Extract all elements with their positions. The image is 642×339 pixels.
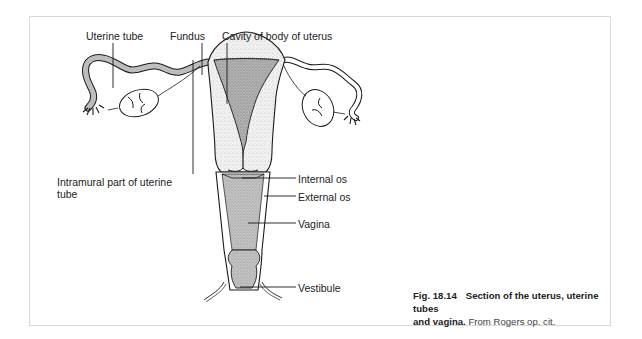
label-vestibule: Vestibule (298, 282, 341, 294)
label-uterine-tube: Uterine tube (86, 30, 143, 42)
label-external-os: External os (298, 191, 351, 203)
label-cavity-of-body-of-uterus: Cavity of body of uterus (222, 30, 332, 42)
figure-title-part2: and vagina. (413, 316, 466, 327)
figure-caption: Fig. 18.14Section of the uterus, uterine… (413, 289, 613, 328)
label-vagina: Vagina (298, 218, 330, 230)
left-ovary (108, 66, 200, 122)
right-ovary (283, 64, 345, 132)
vagina (204, 172, 282, 302)
label-fundus: Fundus (170, 30, 205, 42)
figure-source: From Rogers op. cit. (468, 316, 555, 327)
uterus-body (208, 32, 285, 172)
label-intramural-part-line1: Intramural part of uterine (57, 176, 172, 188)
label-intramural-part-line2: tube (57, 188, 77, 200)
label-internal-os: Internal os (298, 173, 347, 185)
figure-number: Fig. 18.14 (413, 290, 457, 301)
vestibule (228, 250, 260, 288)
